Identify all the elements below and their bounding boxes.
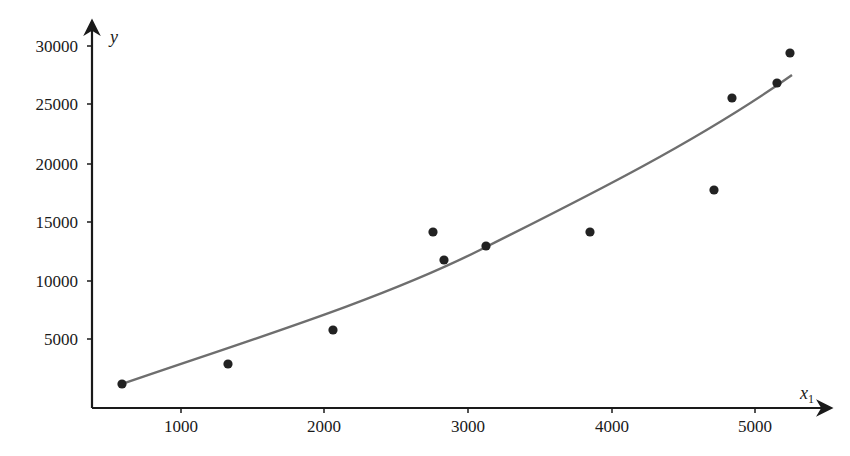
x-axis-label-subscript: 1 xyxy=(808,392,814,406)
y-tick-label: 25000 xyxy=(36,95,79,114)
x-tick-label: 5000 xyxy=(738,417,772,436)
data-point xyxy=(772,78,781,87)
x-tick-labels: 1000 2000 3000 4000 5000 xyxy=(164,417,772,436)
y-axis-label: y xyxy=(108,27,118,47)
data-point xyxy=(785,48,794,57)
x-tick-label: 4000 xyxy=(595,417,629,436)
data-point xyxy=(481,241,490,250)
data-points xyxy=(117,48,794,388)
data-point xyxy=(585,227,594,236)
x-tick-label: 2000 xyxy=(307,417,341,436)
x-tick-label: 3000 xyxy=(451,417,485,436)
y-tick-label: 20000 xyxy=(36,155,79,174)
data-point xyxy=(328,325,337,334)
fitted-curve xyxy=(122,75,792,384)
scatter-chart: 5000 10000 15000 20000 25000 30000 1000 … xyxy=(0,0,850,456)
data-point xyxy=(727,93,736,102)
data-point xyxy=(709,185,718,194)
x-tick-label: 1000 xyxy=(164,417,198,436)
y-tick-label: 15000 xyxy=(36,213,79,232)
y-tick-labels: 5000 10000 15000 20000 25000 30000 xyxy=(36,37,79,349)
y-tick-label: 30000 xyxy=(36,37,79,56)
data-point xyxy=(117,379,126,388)
y-tick-label: 10000 xyxy=(36,272,79,291)
y-tick-label: 5000 xyxy=(44,330,78,349)
data-point xyxy=(428,227,437,236)
data-point xyxy=(223,359,232,368)
data-point xyxy=(439,255,448,264)
x-axis-label: x1 xyxy=(799,383,814,406)
